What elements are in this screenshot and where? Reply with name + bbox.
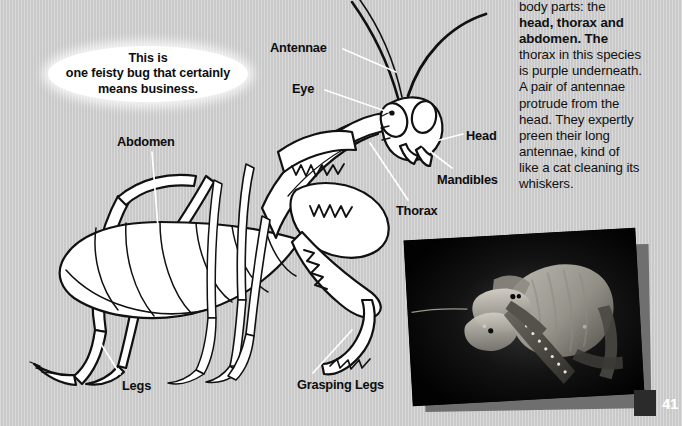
photo-inset xyxy=(404,228,645,407)
leader-thorax xyxy=(370,143,408,200)
body-copy-line: antennae, kind of xyxy=(519,144,679,160)
label-legs: Legs xyxy=(122,378,151,393)
leader-eye xyxy=(325,90,388,112)
label-head: Head xyxy=(466,128,497,143)
body-copy-line: head, thorax and xyxy=(519,15,679,31)
body-copy-line: body parts: the xyxy=(519,0,679,15)
body-copy-line: preen their long xyxy=(519,128,679,144)
body-copy-line: abdomen. The xyxy=(519,31,679,47)
body-copy-line: whiskers. xyxy=(519,176,679,192)
leader-mandibles xyxy=(418,142,452,168)
body-copy: body parts: the head, thorax and abdomen… xyxy=(519,0,679,192)
label-abdomen: Abdomen xyxy=(117,134,175,149)
folio-backdrop xyxy=(634,390,656,416)
body-copy-line: like a cat cleaning its xyxy=(519,160,679,176)
body-copy-line: thorax in this species xyxy=(519,47,679,63)
body-copy-line: is purple underneath. xyxy=(519,63,679,79)
photo-inset-image xyxy=(404,228,645,407)
callout-bubble: This is one feisty bug that certainly me… xyxy=(48,46,248,102)
leader-head xyxy=(432,134,463,142)
body-copy-line: protrude from the xyxy=(519,96,679,112)
body-copy-line: A pair of antennae xyxy=(519,79,679,95)
label-eye: Eye xyxy=(292,81,314,96)
page-number: 41 xyxy=(662,395,678,412)
leader-legs xyxy=(96,336,120,374)
label-mandibles: Mandibles xyxy=(437,172,498,187)
magazine-page: This is one feisty bug that certainly me… xyxy=(0,0,682,426)
callout-bubble-text: This is one feisty bug that certainly me… xyxy=(66,51,230,97)
body-copy-line: head. They expertly xyxy=(519,112,679,128)
label-antennae: Antennae xyxy=(270,40,327,55)
label-thorax: Thorax xyxy=(396,203,437,218)
leader-antennae xyxy=(343,49,396,72)
label-grasping-legs: Grasping Legs xyxy=(297,377,384,392)
leader-abdomen xyxy=(152,152,158,228)
leader-grasping-legs xyxy=(313,330,352,373)
